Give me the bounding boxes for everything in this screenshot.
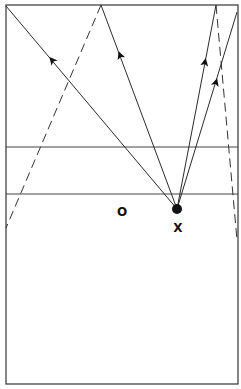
rebound-path-right (216, 5, 237, 240)
player-label: X (173, 221, 183, 235)
court-diagram: O X (0, 0, 241, 389)
shot-path-right-wall (177, 12, 237, 209)
opponent-label: O (117, 205, 127, 219)
shot-path-left-corner (6, 6, 177, 209)
ball (172, 204, 182, 214)
